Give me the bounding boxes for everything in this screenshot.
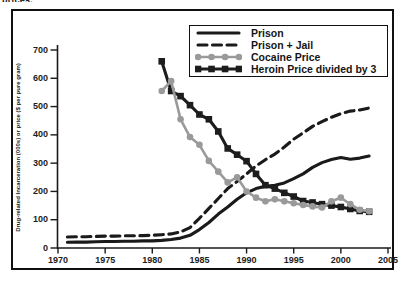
y-tick-label: 300: [26, 158, 48, 168]
legend: Prison Prison + Jail Cocaine Price Heroi…: [189, 25, 388, 77]
heroin-data-point: [243, 158, 250, 165]
cocaine-data-point: [328, 198, 335, 205]
heroin-data-point: [177, 93, 184, 100]
legend-label: Prison + Jail: [251, 39, 313, 51]
cocaine-data-point: [253, 194, 260, 201]
y-tick-label: 0: [26, 243, 48, 253]
cocaine-data-point: [208, 54, 215, 61]
cocaine-data-point: [236, 54, 242, 61]
heroin-data-point: [208, 66, 215, 73]
x-tick-label: 1985: [184, 255, 214, 265]
legend-item-heroin-price: Heroin Price divided by 3: [195, 63, 383, 75]
cocaine-data-point: [234, 174, 241, 181]
cocaine-data-point: [262, 198, 269, 205]
x-tick-label: 1975: [90, 255, 120, 265]
legend-label: Heroin Price divided by 3: [251, 63, 376, 75]
y-tick-label: 500: [26, 101, 48, 111]
x-tick-label: 1980: [137, 255, 167, 265]
cocaine-data-point: [347, 201, 354, 208]
legend-label: Cocaine Price: [251, 51, 320, 63]
heroin-data-point: [206, 116, 213, 123]
cocaine-data-point: [281, 198, 288, 205]
cocaine-price-marker-line-icon: [195, 51, 242, 63]
cocaine-data-point: [272, 196, 279, 203]
y-tick-label: 400: [26, 129, 48, 139]
legend-item-cocaine-price: Cocaine Price: [195, 51, 383, 63]
cocaine-data-point: [319, 204, 326, 211]
cocaine-data-point: [224, 179, 231, 186]
heroin-data-point: [158, 58, 165, 65]
heroin-data-point: [253, 171, 260, 178]
y-tick-label: 600: [26, 73, 48, 83]
heroin-data-point: [338, 204, 345, 211]
heroin-data-point: [290, 193, 297, 200]
cocaine-data-point: [177, 116, 184, 123]
x-tick-label: 1995: [279, 255, 309, 265]
y-axis-title: Drug-related Incarceration (000s) or pri…: [15, 45, 24, 250]
y-tick-label: 100: [26, 214, 48, 224]
heroin-data-point: [234, 151, 241, 158]
cocaine-data-point: [215, 168, 222, 175]
x-tick-label: 1990: [232, 255, 262, 265]
prison-jail-dashed-line-icon: [195, 39, 242, 51]
x-tick-label: 1970: [43, 255, 73, 265]
x-tick-label: 2005: [373, 255, 403, 265]
heroin-data-point: [224, 145, 231, 152]
cocaine-data-point: [356, 207, 363, 214]
cocaine-data-point: [196, 141, 203, 148]
heroin-data-point: [187, 102, 194, 109]
cocaine-price-line: [162, 81, 369, 211]
heroin-data-point: [215, 128, 222, 135]
heroin-data-point: [236, 66, 242, 73]
cocaine-data-point: [290, 200, 297, 207]
y-tick-label: 200: [26, 186, 48, 196]
heroin-data-point: [262, 182, 269, 189]
cocaine-data-point: [243, 188, 250, 195]
cocaine-data-point: [168, 78, 175, 85]
heroin-data-point: [222, 66, 229, 73]
heroin-data-point: [272, 185, 279, 192]
cocaine-data-point: [222, 54, 229, 61]
cocaine-data-point: [206, 158, 213, 165]
heroin-price-marker-line-icon: [195, 63, 242, 75]
legend-item-prison: Prison: [195, 27, 383, 39]
cocaine-price-sample-series: [195, 54, 242, 61]
cocaine-data-point: [309, 203, 316, 210]
heroin-data-point: [195, 66, 201, 73]
cocaine-data-point: [187, 134, 194, 141]
legend-label: Prison: [251, 27, 284, 39]
x-tick-label: 2000: [326, 255, 356, 265]
heroin-data-point: [281, 190, 288, 197]
cocaine-data-point: [158, 88, 165, 95]
cocaine-data-point: [300, 202, 307, 209]
prison-line-icon: [195, 27, 242, 39]
heroin-data-point: [196, 111, 203, 118]
legend-item-prison-jail: Prison + Jail: [195, 39, 383, 51]
cocaine-price-series: [158, 78, 372, 215]
y-tick-label: 700: [26, 45, 48, 55]
cocaine-data-point: [366, 208, 373, 215]
cocaine-data-point: [195, 54, 201, 61]
cocaine-data-point: [338, 194, 345, 201]
heroin-price-divided-by-3-sample-series: [195, 66, 242, 73]
